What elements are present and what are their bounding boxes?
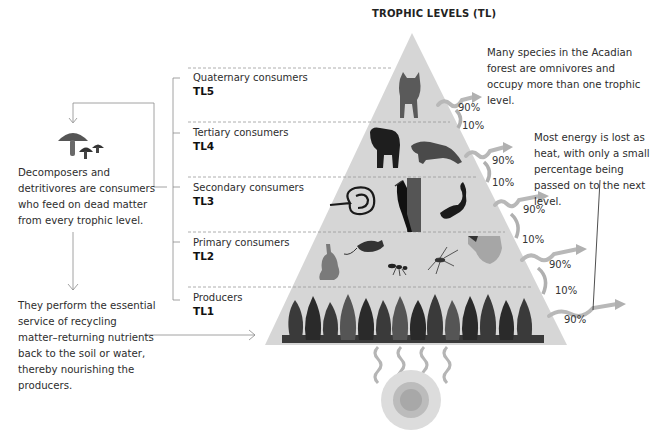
passed-pct-tl2-tl3: 10% xyxy=(522,234,544,245)
level-code: TL2 xyxy=(193,249,290,263)
passed-pct-tl4-tl5: 10% xyxy=(462,120,484,131)
level-name: Secondary consumers xyxy=(193,181,304,194)
level-code: TL3 xyxy=(193,194,304,208)
level-tl4: Tertiary consumers TL4 xyxy=(193,126,288,153)
energy-loss-note: Most energy is lost as heat, with only a… xyxy=(534,130,654,210)
level-tl5: Quaternary consumers TL5 xyxy=(193,71,308,98)
level-name: Primary consumers xyxy=(193,236,290,249)
level-name: Quaternary consumers xyxy=(193,71,308,84)
omnivores-note: Many species in the Acadian forest are o… xyxy=(487,45,647,109)
passed-pct-tl3-tl4: 10% xyxy=(492,177,514,188)
level-name: Tertiary consumers xyxy=(193,126,288,139)
recycling-note: They perform the essential service of re… xyxy=(18,298,158,394)
lost-pct-tl3: 90% xyxy=(523,204,545,215)
level-tl1: Producers TL1 xyxy=(193,291,243,318)
level-tl2: Primary consumers TL2 xyxy=(193,236,290,263)
passed-pct-tl1-tl2: 10% xyxy=(555,285,577,296)
level-code: TL4 xyxy=(193,139,288,153)
decomposers-note: Decomposers and detritivores are consume… xyxy=(18,165,158,229)
level-code: TL1 xyxy=(193,304,243,318)
level-tl3: Secondary consumers TL3 xyxy=(193,181,304,208)
lost-pct-tl5: 90% xyxy=(458,102,480,113)
sun-icon xyxy=(381,370,441,430)
mushroom-icon xyxy=(58,133,104,159)
level-name: Producers xyxy=(193,291,243,304)
lost-pct-tl1: 90% xyxy=(564,314,586,325)
lost-pct-tl2: 90% xyxy=(549,259,571,270)
level-bracket xyxy=(173,78,180,300)
level-code: TL5 xyxy=(193,84,308,98)
lost-pct-tl4: 90% xyxy=(492,155,514,166)
